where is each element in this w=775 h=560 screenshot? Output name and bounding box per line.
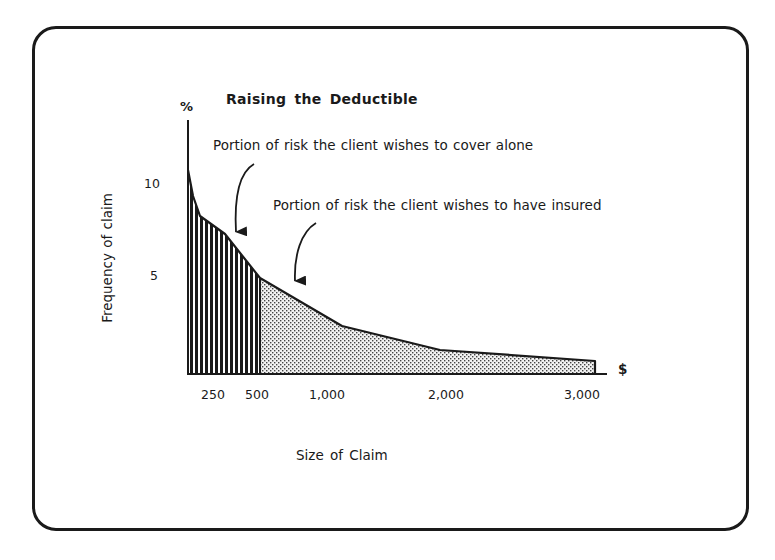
x-tick-250: 250 [201,389,225,402]
y-tick-5: 5 [150,270,158,283]
x-unit-label: $ [618,363,627,377]
arrow-cover-alone-icon [236,164,254,232]
x-tick-2000: 2,000 [428,389,464,402]
x-tick-1000: 1,000 [309,389,345,402]
y-axis-label: Frequency of claim [101,193,115,323]
cover-alone-region [188,170,260,374]
chart-title: Raising the Deductible [226,92,418,106]
arrow-insured-icon [295,223,316,281]
x-tick-500: 500 [245,389,269,402]
x-axis-label: Size of Claim [296,449,388,463]
annotation-insured: Portion of risk the client wishes to hav… [273,199,601,213]
y-unit-label: % [180,100,193,113]
y-tick-10: 10 [144,178,160,191]
x-tick-3000: 3,000 [564,389,600,402]
chart-plot [0,0,775,560]
insured-region [260,278,595,374]
annotation-cover-alone: Portion of risk the client wishes to cov… [213,139,533,153]
